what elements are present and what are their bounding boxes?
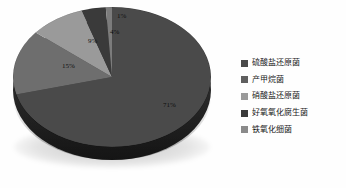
legend-item-label: 铁氧化细菌 [252,126,292,134]
legend-item-aerobic-saprophytic-bacteria[interactable]: 好氧氧化腐生菌 [241,105,345,122]
legend-item-methanogens[interactable]: 产甲烷菌 [241,72,345,89]
pie-slice-label-0: 71% [163,101,176,109]
legend-item-nitrate-reducing-bacteria[interactable]: 硝酸盐还原菌 [241,88,345,105]
legend-item-label: 硫酸盐还原菌 [252,59,300,67]
pie-slice-label-4: 1% [117,12,126,20]
legend-swatch-icon [241,110,248,117]
pie-chart-figure: 71% 15% 9% 4% 1% 硫酸盐还原菌 产甲烷菌 硝酸盐还原菌 好氧氧化… [0,0,346,188]
pie-chart-graphic: 71% 15% 9% 4% 1% [0,0,224,188]
legend-swatch-icon [241,76,248,83]
pie-slice-label-1: 15% [62,62,75,70]
pie-slice-label-2: 9% [88,37,97,45]
legend-item-sulfate-reducing-bacteria[interactable]: 硫酸盐还原菌 [241,55,345,72]
legend-item-label: 好氧氧化腐生菌 [252,109,308,117]
legend-item-label: 硝酸盐还原菌 [252,92,300,100]
legend-item-label: 产甲烷菌 [252,76,284,84]
legend-item-iron-oxidizing-bacteria[interactable]: 铁氧化细菌 [241,121,345,138]
pie-slice-label-3: 4% [110,28,119,36]
legend-swatch-icon [241,60,248,67]
legend-swatch-icon [241,126,248,133]
legend-swatch-icon [241,93,248,100]
chart-legend: 硫酸盐还原菌 产甲烷菌 硝酸盐还原菌 好氧氧化腐生菌 铁氧化细菌 [241,55,345,138]
